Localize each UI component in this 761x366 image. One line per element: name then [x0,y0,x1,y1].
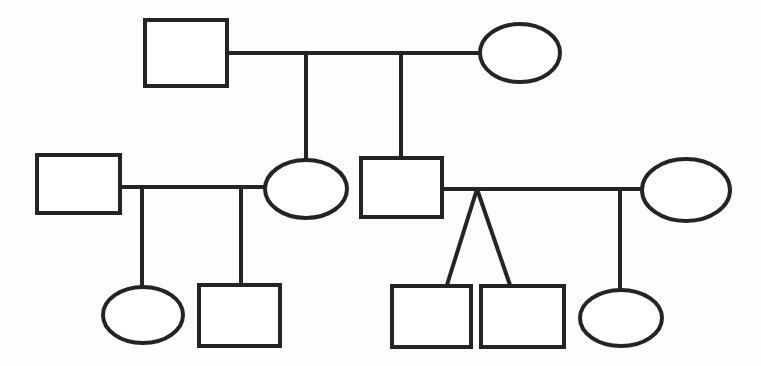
node-g2-female-left[interactable] [265,160,347,218]
twin-fork-line-right [477,189,511,288]
node-g3-female-a[interactable] [103,287,183,343]
node-g2-female-right[interactable] [642,159,730,221]
node-g3-female-b[interactable] [580,290,662,346]
node-g3-male-a[interactable] [199,285,280,346]
twin-fork-line-left [446,189,477,288]
node-g2-male-left[interactable] [37,155,120,213]
pedigree-diagram [0,0,761,366]
node-g2-male-right[interactable] [361,158,442,217]
node-g3-male-twin-2[interactable] [481,286,564,347]
node-g3-male-twin-1[interactable] [392,286,471,347]
node-g1-female[interactable] [480,24,560,82]
node-g1-male[interactable] [145,20,227,86]
descent-lines-g1-g2 [306,51,401,161]
generation-1-group [145,20,560,86]
pedigree-canvas [0,0,761,366]
generation-3-group [103,285,662,347]
